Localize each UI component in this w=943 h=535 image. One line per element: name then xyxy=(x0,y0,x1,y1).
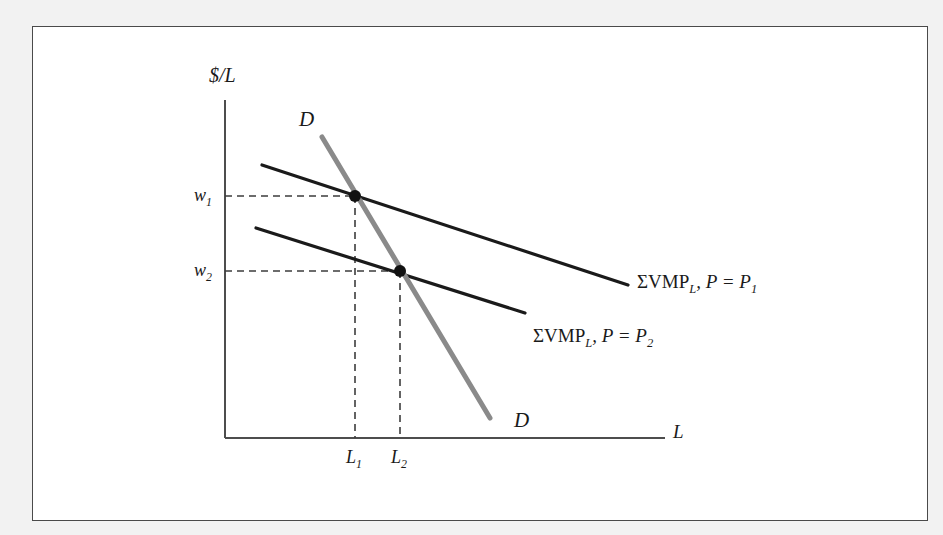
vmp-p1-prefix: ΣVMP xyxy=(637,271,689,292)
x-tick-l2-main: L xyxy=(391,447,401,467)
demand-curve-label-top: D xyxy=(299,107,314,132)
x-axis-label: L xyxy=(673,421,684,443)
vmp-label-p1: ΣVMPL, P = P1 xyxy=(637,271,757,297)
x-tick-l1-sub: 1 xyxy=(356,457,362,471)
equilibrium-point-2 xyxy=(394,265,406,277)
y-tick-w1-sub: 1 xyxy=(206,195,212,209)
vmp-curve-p2 xyxy=(256,228,525,313)
x-tick-label-l2: L2 xyxy=(391,447,407,472)
y-tick-label-w1: w1 xyxy=(194,185,212,210)
x-tick-l1-main: L xyxy=(346,447,356,467)
y-tick-w1-main: w xyxy=(194,185,206,205)
plot-canvas xyxy=(0,0,943,535)
y-axis-label: $/L xyxy=(209,64,236,87)
vmp-p2-condition: , P = P xyxy=(592,325,647,346)
vmp-p2-prefix: ΣVMP xyxy=(533,325,585,346)
vmp-p1-condition: , P = P xyxy=(696,271,751,292)
vmp-curve-p1 xyxy=(262,165,628,285)
vmp-p1-condition-sub: 1 xyxy=(751,282,757,296)
equilibrium-point-1 xyxy=(349,190,361,202)
vmp-p2-condition-sub: 2 xyxy=(647,336,653,350)
y-tick-w2-main: w xyxy=(194,260,206,280)
y-tick-w2-sub: 2 xyxy=(206,270,212,284)
x-tick-label-l1: L1 xyxy=(346,447,362,472)
x-tick-l2-sub: 2 xyxy=(401,457,407,471)
vmp-label-p2: ΣVMPL, P = P2 xyxy=(533,325,653,351)
figure-page: $/L L w1 w2 L1 L2 D D ΣVMPL, P = P1 ΣVMP… xyxy=(0,0,943,535)
demand-curve-d xyxy=(322,137,490,418)
y-tick-label-w2: w2 xyxy=(194,260,212,285)
demand-curve-label-bottom: D xyxy=(514,408,529,433)
